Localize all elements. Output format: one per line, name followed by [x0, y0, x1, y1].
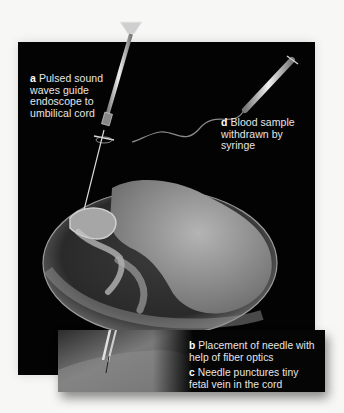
label-d-line3: syringe — [221, 139, 255, 151]
needle-closeup-image — [58, 330, 193, 392]
label-a-line1: Pulsed sound — [39, 72, 103, 84]
label-d: dBlood sample withdrawn by syringe — [221, 117, 295, 152]
label-a-line2: waves guide — [30, 84, 89, 96]
label-c-line2: fetal vein in the cord — [189, 379, 282, 390]
label-b-letter: b — [189, 340, 195, 351]
label-b-line1: Placement of needle with — [198, 340, 314, 351]
label-d-letter: d — [221, 116, 227, 128]
label-a-line3: endoscope to — [30, 95, 94, 107]
label-a: aPulsed sound waves guide endoscope to u… — [30, 73, 103, 119]
label-a-letter: a — [30, 72, 36, 84]
label-c: cNeedle punctures tiny fetal vein in the… — [189, 367, 298, 390]
label-c-letter: c — [189, 367, 195, 378]
closeup-inset: bPlacement of needle with help of fiber … — [58, 330, 325, 392]
label-b: bPlacement of needle with help of fiber … — [189, 340, 315, 363]
label-c-line1: Needle punctures tiny — [198, 367, 299, 378]
label-a-line4: umbilical cord — [30, 107, 95, 119]
label-b-line2: help of fiber optics — [189, 352, 274, 363]
label-d-line2: withdrawn by — [221, 128, 283, 140]
label-d-line1: Blood sample — [230, 116, 294, 128]
